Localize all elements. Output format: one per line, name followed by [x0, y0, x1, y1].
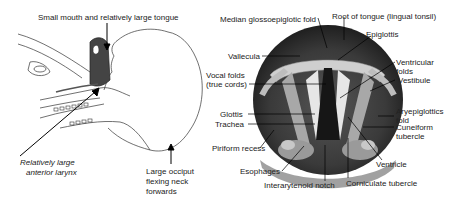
- label-interarytenoid: Interarytenoid notch: [264, 181, 335, 190]
- label-root-tongue: Root of tongue (lingual tonsil): [332, 12, 436, 21]
- label-ventricular-2: folds: [396, 67, 413, 76]
- label-occiput-3: forwards: [146, 187, 177, 196]
- label-aryepiglottic-1: Aryepiglottics: [396, 107, 444, 116]
- label-cuneiform-2: tubercle: [396, 132, 424, 141]
- label-glottis: Glottis: [220, 110, 243, 119]
- label-esophages: Esophages: [240, 167, 280, 176]
- label-larynx-2: anterior larynx: [26, 168, 77, 177]
- label-corniculate: Corniculate tubercle: [346, 179, 417, 188]
- label-epiglottis: Epiglottis: [366, 30, 398, 39]
- label-vocal-folds-1: Vocal folds: [206, 71, 245, 80]
- label-median-fold: Median glossoepiglotic fold: [220, 15, 316, 24]
- label-vocal-folds-2: (true cords): [206, 80, 247, 89]
- label-mouth-tongue: Small mouth and relatively large tongue: [38, 13, 179, 22]
- label-cuneiform-1: Cuneiform: [396, 123, 433, 132]
- label-trachea: Trachea: [215, 120, 244, 129]
- label-vestibule: Vestibule: [398, 76, 430, 85]
- label-vallecula: Vallecula: [228, 52, 260, 61]
- label-piriform: Piriform recess: [212, 144, 265, 153]
- label-ventricle: Ventricle: [376, 160, 407, 169]
- label-occiput-2: flexing neck: [146, 177, 188, 186]
- label-ventricular-1: Ventricular: [396, 58, 434, 67]
- label-occiput-1: Large occiput: [146, 167, 194, 176]
- label-larynx-1: Relatively large: [20, 158, 75, 167]
